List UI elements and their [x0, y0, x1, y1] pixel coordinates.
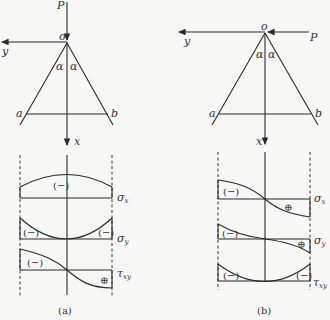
tau-xy-curve [20, 249, 112, 288]
sign-sy-right: (−) [98, 227, 114, 238]
figure-a: P o y x a b α α (−) σx (−) (−) σy [1, 0, 132, 316]
label-b: b [111, 107, 118, 120]
label-alpha-left: α [256, 48, 264, 61]
label-tau-xy: τxy [117, 267, 132, 281]
caption-b: (b) [257, 305, 271, 316]
label-o: o [261, 20, 268, 33]
sign-sy-pos: ⊕ [297, 239, 305, 250]
sign-sx-pos: ⊕ [284, 202, 292, 213]
wedge-left-edge [20, 43, 67, 125]
label-x: x [74, 135, 81, 148]
label-y: y [183, 35, 191, 48]
label-b: b [315, 107, 322, 120]
sign-sy-left: (−) [23, 227, 39, 238]
label-sigma-x: σx [117, 191, 129, 205]
figure-b: P o y x a b α α (−) ⊕ σx (−) ⊕ σy [179, 20, 328, 316]
label-o: o [59, 30, 66, 43]
label-alpha-right: α [268, 48, 276, 61]
sign-sx-neg: (−) [223, 186, 239, 197]
sign-txy-neg: (−) [27, 257, 43, 268]
label-sigma-x: σx [314, 192, 326, 206]
wedge-left-edge [212, 33, 265, 125]
label-tau-xy: τxy [313, 276, 328, 290]
label-y: y [1, 45, 9, 58]
label-p: P [309, 31, 318, 44]
label-x: x [256, 135, 263, 148]
sign-sx: (−) [53, 180, 69, 191]
wedge-stress-figure: P o y x a b α α (−) σx (−) (−) σy [0, 0, 330, 320]
label-alpha-left: α [56, 60, 64, 73]
label-a: a [16, 107, 23, 120]
wedge-right-edge [265, 33, 318, 125]
wedge-right-edge [67, 43, 113, 125]
label-alpha-right: α [70, 60, 78, 73]
sign-txy-left: (−) [223, 270, 239, 281]
label-sigma-y: σy [117, 232, 130, 246]
sign-txy-right: (−) [296, 270, 312, 281]
label-p: P [56, 0, 65, 12]
sign-sy-neg: (−) [222, 228, 238, 239]
label-sigma-y: σy [314, 234, 327, 248]
caption-a: (a) [58, 305, 72, 316]
label-a: a [209, 107, 216, 120]
sign-txy-pos: ⊕ [100, 275, 108, 286]
